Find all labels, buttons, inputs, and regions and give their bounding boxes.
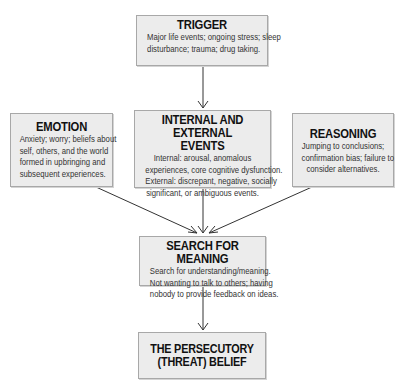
node-title: TRIGGER <box>147 19 257 32</box>
node-search-for-meaning: SEARCH FOR MEANING Search for understand… <box>139 236 266 286</box>
node-title: REASONING <box>302 128 385 141</box>
text-line: nobody to provide feedback on ideas. <box>150 289 255 301</box>
text-line: significant, or ambiguous events. <box>145 188 259 200</box>
text-line: Not wanting to talk to others; having <box>150 278 255 290</box>
text-line: formed in upbringing and <box>20 157 104 169</box>
text-line: Search for understanding/meaning. <box>150 266 255 278</box>
node-trigger: TRIGGER Major life events; ongoing stres… <box>136 15 268 66</box>
node-title: INTERNAL AND EXTERNAL EVENTS <box>145 114 259 153</box>
node-description: Jumping to conclusions; confirmation bia… <box>302 141 385 176</box>
text-line: subsequent experiences. <box>20 169 104 181</box>
text-line: self, others, and the world <box>20 146 104 158</box>
node-emotion: EMOTION Anxiety; worry; beliefs about se… <box>10 113 113 187</box>
text-line: Anxiety; worry; beliefs about <box>20 134 104 146</box>
text-line: consider alternatives. <box>302 164 385 176</box>
text-line: disturbance; trauma; drug taking. <box>147 44 257 56</box>
node-title: SEARCH FOR MEANING <box>150 240 255 266</box>
title-line: (THREAT) BELIEF <box>149 356 255 369</box>
text-line: Jumping to conclusions; <box>302 141 385 153</box>
title-line: EVENTS <box>145 140 259 153</box>
text-line: External: discrepant, negative, socially <box>145 176 259 188</box>
text-line: Major life events; ongoing stress; sleep <box>147 32 257 44</box>
title-line: INTERNAL AND EXTERNAL <box>145 114 259 140</box>
node-title: THE PERSECUTORY (THREAT) BELIEF <box>149 343 255 369</box>
text-line: confirmation bias; failure to <box>302 153 385 165</box>
node-description: Internal: arousal, anomalous experiences… <box>145 153 259 199</box>
node-description: Anxiety; worry; beliefs about self, othe… <box>20 134 104 180</box>
text-line: experiences, core cognitive dysfunction. <box>145 165 259 177</box>
text-line: Internal: arousal, anomalous <box>145 153 259 165</box>
node-persecutory-belief: THE PERSECUTORY (THREAT) BELIEF <box>138 332 266 379</box>
node-internal-external-events: INTERNAL AND EXTERNAL EVENTS Internal: a… <box>134 110 271 188</box>
node-description: Major life events; ongoing stress; sleep… <box>147 32 257 55</box>
node-title: EMOTION <box>20 121 104 134</box>
node-reasoning: REASONING Jumping to conclusions; confir… <box>292 113 394 187</box>
node-description: Search for understanding/meaning. Not wa… <box>150 266 255 301</box>
